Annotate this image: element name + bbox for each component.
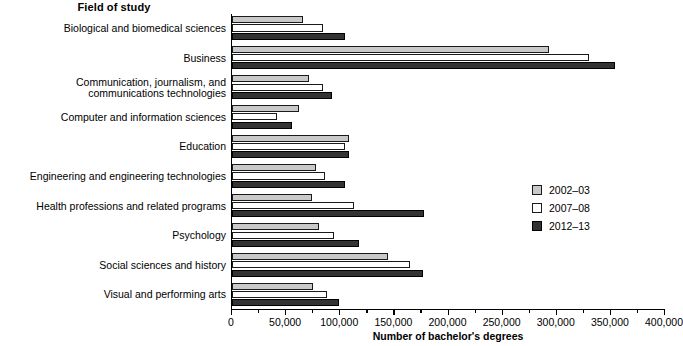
bar-2002-03 [232, 283, 313, 290]
legend-item-2007-08: 2007–08 [532, 200, 590, 216]
x-tick [664, 310, 665, 315]
x-tick-label: 300,000 [537, 316, 575, 328]
legend-label-2012-13: 2012–13 [549, 220, 590, 232]
bar-2012-13 [232, 62, 615, 69]
x-tick-minor [583, 310, 584, 313]
y-axis-line [231, 14, 232, 310]
chart-category-rows: Biological and biomedical sciencesBusine… [0, 14, 678, 310]
x-tick-label: 150,000 [374, 316, 412, 328]
x-tick [339, 310, 340, 315]
bar-2012-13 [232, 33, 345, 40]
x-tick [448, 310, 449, 315]
x-tick [502, 310, 503, 315]
x-tick [231, 310, 232, 315]
category-bar-group [232, 253, 672, 279]
chart-category-row: Business [0, 44, 678, 74]
x-tick-minor [529, 310, 530, 313]
bar-2007-08 [232, 291, 327, 298]
bar-2002-03 [232, 253, 388, 260]
x-tick-minor [312, 310, 313, 313]
chart-legend: 2002–03 2007–08 2012–13 [532, 182, 590, 236]
x-tick-label: 200,000 [429, 316, 467, 328]
bar-2002-03 [232, 46, 549, 53]
legend-item-2002-03: 2002–03 [532, 182, 590, 198]
legend-item-2012-13: 2012–13 [532, 218, 590, 234]
bar-2002-03 [232, 16, 303, 23]
bar-2002-03 [232, 164, 316, 171]
category-label: Visual and performing arts [0, 289, 226, 301]
category-label: Biological and biomedical sciences [0, 23, 226, 35]
bar-2012-13 [232, 270, 423, 277]
x-tick-minor [258, 310, 259, 313]
category-bar-group [232, 194, 672, 220]
category-bar-group [232, 105, 672, 131]
category-label: Social sciences and history [0, 260, 226, 272]
x-tick [610, 310, 611, 315]
x-tick-minor [475, 310, 476, 313]
x-tick-label: 100,000 [320, 316, 358, 328]
x-tick [285, 310, 286, 315]
x-tick [556, 310, 557, 315]
x-tick-label: 50,000 [269, 316, 301, 328]
bar-2012-13 [232, 151, 349, 158]
legend-swatch-icon-2007-08 [532, 203, 542, 213]
legend-swatch-icon-2002-03 [532, 185, 542, 195]
bar-2007-08 [232, 261, 410, 268]
category-bar-group [232, 283, 672, 309]
chart-category-row: Communication, journalism, and communica… [0, 73, 678, 103]
category-label: Engineering and engineering technologies [0, 171, 226, 183]
chart-category-row: Social sciences and history [0, 251, 678, 281]
chart-category-row: Computer and information sciences [0, 103, 678, 133]
category-bar-group [232, 46, 672, 72]
category-label: Psychology [0, 230, 226, 242]
bar-2012-13 [232, 181, 345, 188]
bar-2012-13 [232, 210, 424, 217]
bar-2002-03 [232, 135, 349, 142]
x-tick-label: 350,000 [591, 316, 629, 328]
bar-2002-03 [232, 105, 299, 112]
category-bar-group [232, 164, 672, 190]
category-label: Computer and information sciences [0, 112, 226, 124]
bar-2002-03 [232, 223, 319, 230]
bar-2007-08 [232, 24, 323, 31]
x-tick-label: 250,000 [483, 316, 521, 328]
bar-2012-13 [232, 92, 332, 99]
x-tick-minor [420, 310, 421, 313]
category-bar-group [232, 135, 672, 161]
bar-2002-03 [232, 194, 312, 201]
chart-category-row: Biological and biomedical sciences [0, 14, 678, 44]
chart-category-row: Education [0, 132, 678, 162]
category-bar-group [232, 16, 672, 42]
x-tick-minor [637, 310, 638, 313]
bar-2007-08 [232, 84, 323, 91]
chart-category-row: Visual and performing arts [0, 280, 678, 310]
bar-2012-13 [232, 299, 339, 306]
x-tick [393, 310, 394, 315]
legend-label-2002-03: 2002–03 [549, 184, 590, 196]
bar-2007-08 [232, 143, 345, 150]
x-tick-minor [366, 310, 367, 313]
bar-2007-08 [232, 113, 277, 120]
category-label: Business [0, 53, 226, 65]
x-tick-label: 0 [228, 316, 234, 328]
category-bar-group [232, 75, 672, 101]
bar-2007-08 [232, 54, 589, 61]
bar-2002-03 [232, 75, 309, 82]
chart-category-axis-title: Field of study [0, 1, 228, 13]
bar-2007-08 [232, 232, 334, 239]
x-tick-label: 400,000 [645, 316, 683, 328]
category-label: Communication, journalism, and communica… [0, 77, 226, 100]
bar-2007-08 [232, 172, 325, 179]
category-label: Education [0, 141, 226, 153]
bar-2012-13 [232, 240, 359, 247]
category-bar-group [232, 223, 672, 249]
x-axis-title: Number of bachelor's degrees [231, 330, 665, 342]
legend-label-2007-08: 2007–08 [549, 202, 590, 214]
category-label: Health professions and related programs [0, 201, 226, 213]
bar-2012-13 [232, 122, 292, 129]
legend-swatch-icon-2012-13 [532, 221, 542, 231]
bar-2007-08 [232, 202, 354, 209]
